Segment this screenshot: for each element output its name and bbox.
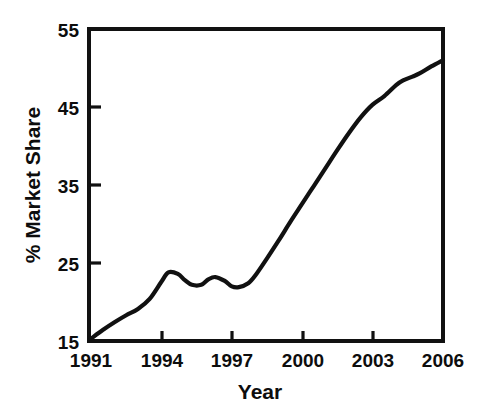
market-share-line-chart: 55 45 35 25 15 1991 1994 1997 2000 2003 …	[0, 0, 485, 413]
y-tick-label-25: 25	[58, 254, 80, 275]
plot-frame	[89, 29, 443, 341]
x-axis-tick-labels: 1991 1994 1997 2000 2003 2006	[70, 350, 464, 371]
y-tick-label-45: 45	[58, 98, 80, 119]
x-tick-label-1994: 1994	[141, 350, 184, 371]
y-tick-label-35: 35	[58, 176, 80, 197]
y-tick-label-55: 55	[58, 20, 80, 41]
x-tick-label-1991: 1991	[70, 350, 113, 371]
x-axis-title: Year	[238, 380, 282, 403]
x-tick-label-1997: 1997	[211, 350, 253, 371]
x-tick-label-2000: 2000	[282, 350, 324, 371]
x-tick-label-2003: 2003	[352, 350, 394, 371]
y-axis-tick-labels: 55 45 35 25 15	[58, 20, 80, 353]
chart-canvas: 55 45 35 25 15 1991 1994 1997 2000 2003 …	[0, 0, 485, 413]
y-axis-title: % Market Share	[21, 107, 44, 263]
axis-box	[89, 29, 443, 341]
data-series-line	[91, 60, 443, 338]
x-tick-label-2006: 2006	[422, 350, 464, 371]
